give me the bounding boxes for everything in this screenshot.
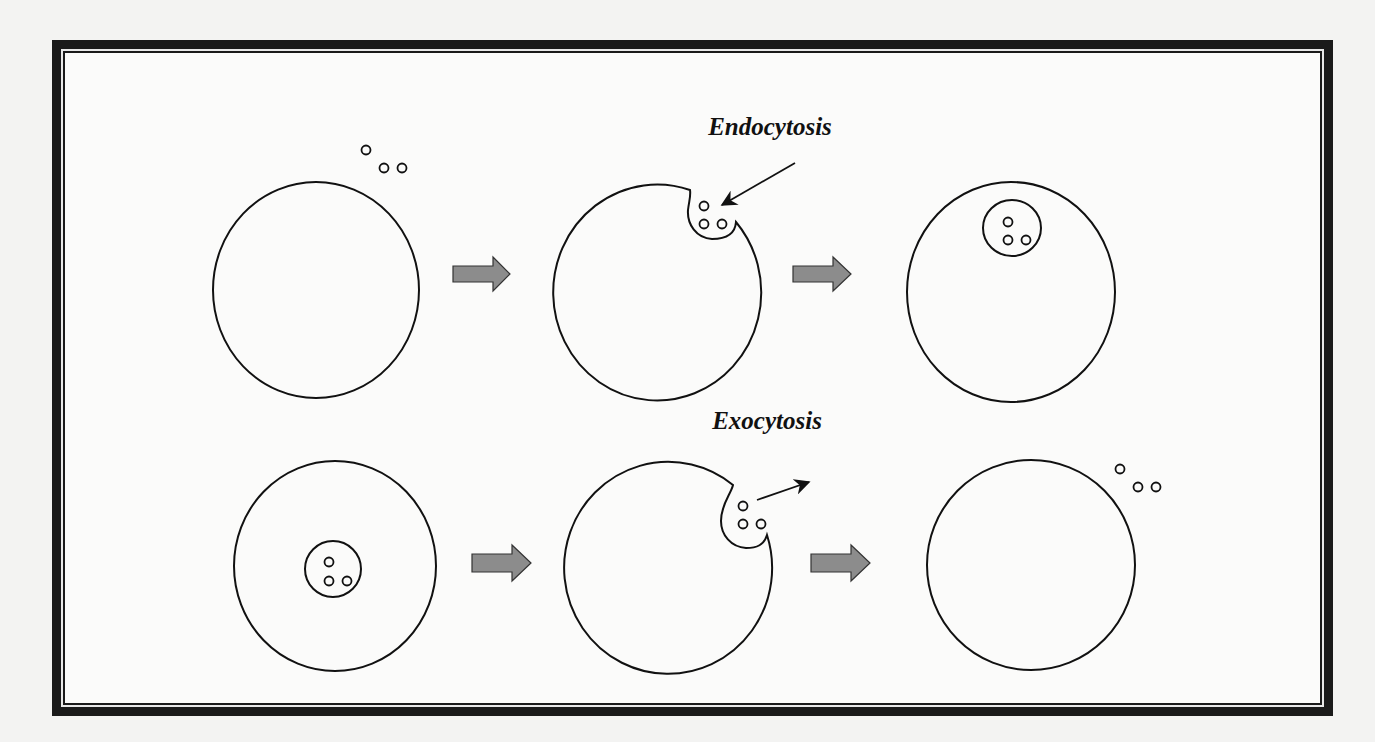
frame-border [52, 40, 1333, 716]
endocytosis-title: Endocytosis [707, 113, 832, 140]
endocytosis-exocytosis-diagram: Endocytosis Exocytosis [0, 0, 1375, 742]
exocytosis-title: Exocytosis [711, 407, 822, 434]
